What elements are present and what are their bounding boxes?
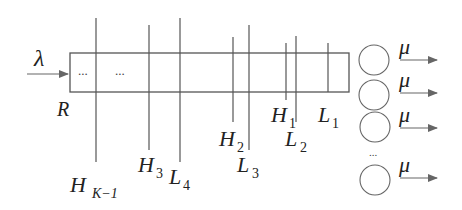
arrival-rate-label: λ bbox=[33, 45, 44, 71]
server-circle-4 bbox=[360, 165, 390, 195]
threshold-label-l1: L 1 bbox=[317, 102, 339, 131]
service-rate-label-4: μ bbox=[398, 152, 410, 177]
threshold-label-h-k-1: H K−1 bbox=[69, 172, 118, 201]
svg-text:L: L bbox=[168, 164, 181, 189]
queueing-diagram: λ ... ... R H K−1 H 3 L 4 H 2 L 3 H 1 L … bbox=[0, 0, 462, 210]
svg-text:3: 3 bbox=[156, 166, 163, 181]
buffer-ellipsis-1: ... bbox=[78, 63, 88, 78]
threshold-label-l2: L 2 bbox=[284, 126, 307, 155]
server-circle-3 bbox=[360, 112, 390, 142]
svg-text:L: L bbox=[317, 102, 330, 127]
threshold-label-l3: L 3 bbox=[236, 152, 259, 181]
svg-text:H: H bbox=[69, 172, 87, 197]
threshold-label-l4: L 4 bbox=[168, 164, 190, 193]
buffer-capacity-label: R bbox=[56, 98, 69, 120]
svg-text:K−1: K−1 bbox=[91, 186, 118, 201]
service-rate-label-2: μ bbox=[398, 67, 410, 92]
servers-ellipsis: ... bbox=[369, 146, 378, 158]
svg-text:L: L bbox=[236, 152, 249, 177]
service-rate-label-1: μ bbox=[398, 34, 410, 59]
threshold-label-h2: H 2 bbox=[218, 126, 244, 155]
threshold-label-h3: H 3 bbox=[137, 152, 163, 181]
svg-text:3: 3 bbox=[252, 166, 259, 181]
svg-text:H: H bbox=[137, 152, 155, 177]
buffer-ellipsis-2: ... bbox=[115, 63, 125, 78]
buffer-queue-box bbox=[70, 53, 349, 92]
svg-text:L: L bbox=[284, 126, 297, 151]
svg-text:H: H bbox=[270, 102, 288, 127]
svg-text:H: H bbox=[218, 126, 236, 151]
svg-text:1: 1 bbox=[332, 116, 339, 131]
server-circle-2 bbox=[359, 80, 389, 110]
svg-text:4: 4 bbox=[183, 178, 190, 193]
svg-text:2: 2 bbox=[300, 140, 307, 155]
server-circle-1 bbox=[359, 45, 389, 75]
service-rate-label-3: μ bbox=[398, 102, 410, 127]
